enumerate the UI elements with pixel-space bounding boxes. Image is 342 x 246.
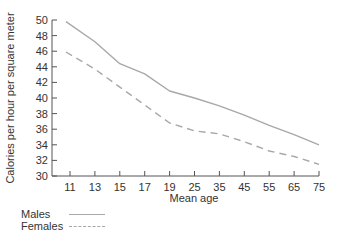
x-axis: 1113151719253545556575 (52, 171, 325, 193)
solid-line-swatch-icon (69, 214, 105, 215)
line-chart: 3032343638404244464850 11131517192535455… (0, 0, 342, 206)
series-line-females (66, 52, 319, 164)
y-tick-label: 40 (36, 92, 48, 104)
x-tick-label: 75 (313, 181, 325, 193)
y-axis: 3032343638404244464850 (36, 14, 57, 182)
y-tick-label: 32 (36, 154, 48, 166)
x-tick-label: 45 (238, 181, 250, 193)
legend-label-females: Females (21, 220, 61, 232)
x-tick-label: 13 (89, 181, 101, 193)
x-tick-label: 15 (114, 181, 126, 193)
x-tick-label: 11 (64, 181, 75, 193)
y-tick-label: 46 (36, 45, 48, 57)
x-axis-title: Mean age (170, 192, 219, 204)
y-tick-label: 42 (36, 76, 48, 88)
y-tick-label: 38 (36, 108, 48, 120)
x-tick-label: 17 (139, 181, 151, 193)
y-tick-label: 30 (36, 170, 48, 182)
y-tick-label: 48 (36, 30, 48, 42)
series-line-males (66, 22, 319, 145)
y-tick-label: 36 (36, 123, 48, 135)
dashed-line-swatch-icon (69, 226, 105, 227)
y-tick-label: 34 (36, 139, 48, 151)
y-tick-label: 50 (36, 14, 48, 26)
legend: Males Females (21, 208, 105, 232)
y-tick-label: 44 (36, 61, 48, 73)
x-tick-label: 65 (288, 181, 300, 193)
y-axis-title: Calories per hour per square meter (4, 12, 16, 184)
legend-item-males: Males (21, 208, 105, 220)
legend-item-females: Females (21, 220, 105, 232)
series-lines (66, 22, 319, 165)
legend-label-males: Males (21, 208, 61, 220)
x-tick-label: 55 (263, 181, 275, 193)
